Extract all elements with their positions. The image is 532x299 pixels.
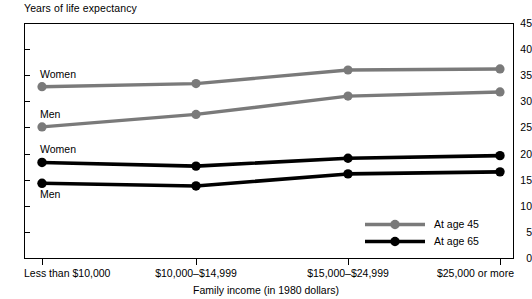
- data-point-marker: [191, 110, 200, 119]
- legend-label: At age 45: [434, 218, 479, 230]
- series-line: [42, 156, 500, 166]
- series-line: [42, 172, 500, 186]
- data-point-marker: [37, 82, 46, 91]
- series-lines-layer: [0, 0, 532, 299]
- data-point-marker: [343, 169, 352, 178]
- data-point-marker: [37, 179, 46, 188]
- legend-item[interactable]: At age 65: [364, 233, 506, 250]
- data-point-marker: [37, 158, 46, 167]
- series-label: Men: [40, 188, 60, 200]
- series-label: Men: [40, 108, 60, 120]
- series-label: Women: [40, 68, 76, 80]
- series-line: [42, 92, 500, 127]
- series-line: [42, 69, 500, 87]
- chart-legend: At age 45At age 65: [364, 216, 506, 250]
- data-point-marker: [495, 64, 504, 73]
- data-point-marker: [191, 181, 200, 190]
- series-label: Women: [40, 143, 76, 155]
- legend-swatch: [364, 233, 426, 250]
- data-point-marker: [343, 154, 352, 163]
- data-point-marker: [191, 79, 200, 88]
- legend-item[interactable]: At age 45: [364, 216, 506, 233]
- data-point-marker: [495, 151, 504, 160]
- legend-swatch: [364, 216, 426, 233]
- chart-container: Years of life expectancy Black 051015202…: [0, 0, 532, 299]
- data-point-marker: [495, 87, 504, 96]
- data-point-marker: [343, 65, 352, 74]
- legend-label: At age 65: [434, 235, 479, 247]
- data-point-marker: [495, 167, 504, 176]
- data-point-marker: [191, 161, 200, 170]
- data-point-marker: [37, 122, 46, 131]
- data-point-marker: [343, 92, 352, 101]
